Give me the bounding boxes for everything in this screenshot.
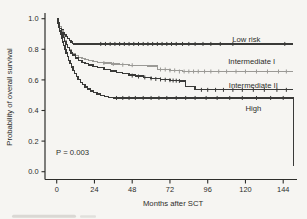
survival-plot-svg: 1.00.80.60.40.20.0024487296120144Months …: [0, 0, 307, 219]
x-axis-title: Months after SCT: [143, 199, 204, 208]
y-axis-title: Probability of overall survival: [5, 48, 14, 146]
y-tick-label: 0.4: [28, 106, 38, 115]
x-tick-label: 96: [204, 185, 212, 194]
survival-chart-figure: 1.00.80.60.40.20.0024487296120144Months …: [0, 0, 307, 219]
x-tick-label: 144: [277, 185, 289, 194]
km-curve-3: [57, 19, 293, 90]
curve-label: Intermediate II: [229, 81, 278, 90]
y-tick-label: 0.0: [28, 167, 38, 176]
cropped-caption-remnant: [12, 215, 76, 218]
curve-label: Intermediate I: [228, 57, 275, 66]
x-tick-label: 48: [128, 185, 136, 194]
y-tick-label: 0.6: [28, 76, 38, 85]
y-tick-label: 0.8: [28, 45, 38, 54]
curve-label: Low risk: [232, 35, 260, 44]
x-tick-label: 72: [166, 185, 174, 194]
x-tick-label: 120: [239, 185, 251, 194]
y-tick-label: 1.0: [28, 14, 38, 23]
x-tick-label: 24: [90, 185, 98, 194]
y-tick-label: 0.2: [28, 137, 38, 146]
x-tick-label: 0: [55, 185, 59, 194]
cropped-caption-remnant: [80, 215, 96, 217]
curve-label: High: [245, 104, 261, 113]
p-value-label: P = 0.003: [56, 148, 89, 157]
